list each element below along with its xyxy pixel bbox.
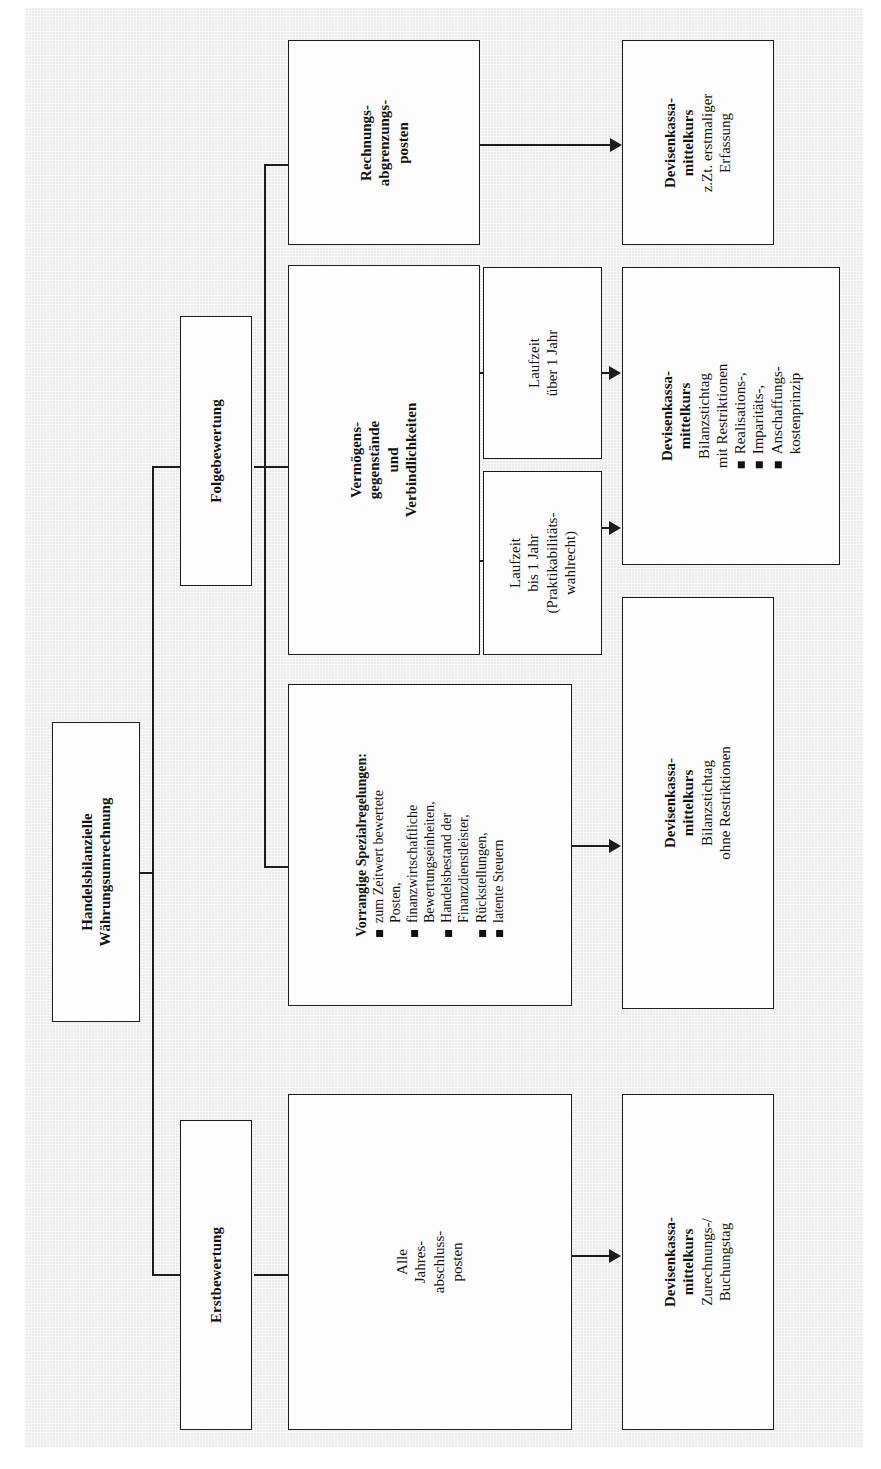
node-rechnungsabgrenzungsposten[interactable]: Rechnungs- abgrenzungs- posten	[288, 40, 480, 245]
node-folgebewertung[interactable]: Folgebewertung	[180, 316, 252, 586]
root-line-2: Währungsumrechnung	[96, 798, 114, 947]
spezial-result-sub-1: Bilanzstichtag	[698, 746, 716, 860]
laufzeit-bis-line-4: wahlrecht)	[561, 513, 579, 614]
alle-jap-label: Alle Jahres- abschluss- posten	[393, 1231, 466, 1294]
node-alle-jahresabschlussposten[interactable]: Alle Jahres- abschluss- posten	[288, 1094, 572, 1430]
connector-to-folgebewertung	[152, 466, 180, 468]
connector-rap-to-result	[480, 144, 612, 146]
rap-result-sub-2: Erfassung	[716, 93, 734, 192]
erst-result-title-2: mittelkurs	[680, 1217, 698, 1307]
vg-line-2: gegenstände	[366, 403, 384, 517]
laufzeit-bis-line-2: bis 1 Jahr	[524, 513, 542, 614]
erstbewertung-label: Erstbewertung	[207, 1227, 225, 1323]
vg-result-bullet-1: Realisations-,	[731, 364, 749, 469]
vg-result-bullet-3-cont: kostenprinzip	[786, 364, 804, 469]
erst-result-sub-2: Buchungstag	[716, 1217, 734, 1307]
spezial-bullet-2-cont: Bewertungseinheiten,	[421, 753, 438, 937]
vg-result-title-1: Devisenkassa-	[658, 364, 676, 469]
vg-result-sub-2: mit Restriktionen	[713, 364, 731, 469]
rap-result-label: Devisenkassa- mittelkurs z.Zt. erstmalig…	[661, 93, 734, 192]
spezial-title: Vorrangige Spezialregelungen:	[353, 753, 370, 937]
arrow-rap-to-result	[610, 138, 622, 152]
connector-to-erstbewertung	[152, 1274, 180, 1276]
laufzeit-ueber-line-2: über 1 Jahr	[543, 330, 561, 397]
spezial-bullet-1: zum Zeitwert bewertete	[370, 753, 387, 937]
laufzeit-bis-line-3: (Praktikabilitäts-	[543, 513, 561, 614]
alle-jap-line-2: Jahres-	[412, 1231, 430, 1294]
erst-result-label: Devisenkassa- mittelkurs Zurechnungs-/ B…	[661, 1217, 734, 1307]
node-erstbewertung[interactable]: Erstbewertung	[180, 1120, 252, 1430]
connector-folge-to-spezial	[264, 866, 288, 868]
vg-line-4: Verbindlichkeiten	[402, 403, 420, 517]
spezial-result-title-2: mittelkurs	[680, 746, 698, 860]
node-erst-result[interactable]: Devisenkassa- mittelkurs Zurechnungs-/ B…	[622, 1094, 774, 1430]
arrow-laufzeitbis-to-result	[609, 521, 621, 535]
spezial-result-title-1: Devisenkassa-	[661, 746, 679, 860]
connector-folge-to-vg	[264, 466, 288, 468]
erst-result-title-1: Devisenkassa-	[661, 1217, 679, 1307]
laufzeit-bis-label: Laufzeit bis 1 Jahr (Praktikabilitäts- w…	[506, 513, 579, 614]
rap-result-title-2: mittelkurs	[680, 93, 698, 192]
rap-line-3: posten	[393, 99, 411, 185]
alle-jap-line-3: abschluss-	[430, 1231, 448, 1294]
spezial-bullet-2: finanzwirtschaftliche	[404, 753, 421, 937]
erst-result-sub-1: Zurechnungs-/	[698, 1217, 716, 1307]
root-label: Handelsbilanzielle Währungsumrechnung	[78, 798, 115, 947]
vg-label: Vermögens- gegenstände und Verbindlichke…	[347, 403, 420, 517]
connector-main-spine	[152, 466, 154, 1276]
connector-alle-to-result	[572, 1255, 614, 1257]
node-spezialregelungen[interactable]: Vorrangige Spezialregelungen: zum Zeitwe…	[288, 684, 572, 1006]
diagram-canvas: Handelsbilanzielle Währungsumrechnung Fo…	[0, 0, 881, 1469]
node-root[interactable]: Handelsbilanzielle Währungsumrechnung	[52, 722, 140, 1022]
root-line-1: Handelsbilanzielle	[78, 798, 96, 947]
rap-line-1: Rechnungs-	[357, 99, 375, 185]
node-spezial-result[interactable]: Devisenkassa- mittelkurs Bilanzstichtag …	[622, 597, 774, 1009]
connector-folge-spine	[264, 164, 266, 868]
connector-folge-to-rap	[264, 164, 288, 166]
spezial-label: Vorrangige Spezialregelungen: zum Zeitwe…	[353, 753, 507, 937]
rap-line-2: abgrenzungs-	[375, 99, 393, 185]
vg-result-bullet-3: Anschaffungs-	[768, 364, 786, 469]
laufzeit-ueber-label: Laufzeit über 1 Jahr	[524, 330, 561, 397]
vg-result-bullet-2: Imparitäts-,	[749, 364, 767, 469]
arrow-alle-to-result	[609, 1249, 621, 1263]
spezial-bullet-1-cont: Posten,	[387, 753, 404, 937]
spezial-result-sub-2: ohne Restriktionen	[716, 746, 734, 860]
vg-result-sub-1: Bilanzstichtag	[694, 364, 712, 469]
node-vg-result[interactable]: Devisenkassa- mittelkurs Bilanzstichtag …	[622, 267, 840, 565]
spezial-bullet-5: latente Steuern	[490, 753, 507, 937]
node-laufzeit-ueber-1-jahr[interactable]: Laufzeit über 1 Jahr	[483, 267, 602, 459]
vg-result-label: Devisenkassa- mittelkurs Bilanzstichtag …	[658, 364, 804, 469]
vg-line-3: und	[384, 403, 402, 517]
alle-jap-line-4: posten	[448, 1231, 466, 1294]
spezial-result-label: Devisenkassa- mittelkurs Bilanzstichtag …	[661, 746, 734, 860]
node-vermoegensgegenstaende[interactable]: Vermögens- gegenstände und Verbindlichke…	[288, 265, 480, 655]
vg-result-title-2: mittelkurs	[676, 364, 694, 469]
spezial-bullet-3-cont: Finanzdienstleister,	[456, 753, 473, 937]
spezial-bullet-3: Handelsbestand der	[439, 753, 456, 937]
rap-result-sub-1: z.Zt. erstmaliger	[698, 93, 716, 192]
connector-spezial-to-result	[572, 845, 614, 847]
arrow-laufzeitueber-to-result	[609, 366, 621, 380]
node-laufzeit-bis-1-jahr[interactable]: Laufzeit bis 1 Jahr (Praktikabilitäts- w…	[483, 471, 602, 655]
folgebewertung-label: Folgebewertung	[207, 399, 225, 502]
node-rap-result[interactable]: Devisenkassa- mittelkurs z.Zt. erstmalig…	[622, 40, 774, 245]
connector-erst-to-alle	[254, 1274, 288, 1276]
erstbewertung-text: Erstbewertung	[207, 1227, 225, 1323]
rap-label: Rechnungs- abgrenzungs- posten	[357, 99, 412, 185]
rap-result-title-1: Devisenkassa-	[661, 93, 679, 192]
arrow-spezial-to-result	[609, 839, 621, 853]
spezial-bullet-4: Rückstellungen,	[473, 753, 490, 937]
laufzeit-bis-line-1: Laufzeit	[506, 513, 524, 614]
alle-jap-line-1: Alle	[393, 1231, 411, 1294]
vg-line-1: Vermögens-	[347, 403, 365, 517]
folgebewertung-text: Folgebewertung	[207, 399, 225, 502]
laufzeit-ueber-line-1: Laufzeit	[524, 330, 542, 397]
